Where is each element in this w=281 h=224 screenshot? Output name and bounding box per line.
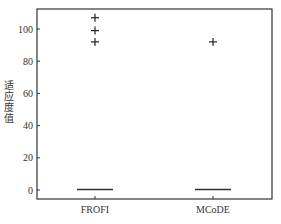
plot-frame <box>37 9 272 199</box>
y-tick-label: 100 <box>18 24 33 35</box>
box-series <box>77 14 231 190</box>
y-tick-label: 80 <box>23 56 33 67</box>
y-tick-label: 0 <box>28 185 33 196</box>
outlier-plus-marker <box>91 14 99 22</box>
y-axis-label: 适应度值 <box>2 80 16 124</box>
x-tick-label: FROFI <box>81 204 109 215</box>
outlier-plus-marker <box>91 27 99 35</box>
y-tick-label: 60 <box>23 88 33 99</box>
outlier-plus-marker <box>91 38 99 46</box>
box-mcode <box>195 38 231 190</box>
outlier-plus-marker <box>209 38 217 46</box>
x-tick-label: MCoDE <box>196 204 230 215</box>
y-tick-label: 20 <box>23 152 33 163</box>
box-plot: 020406080100 FROFIMCoDE <box>0 0 281 224</box>
box-frofi <box>77 14 113 190</box>
y-tick-label: 40 <box>23 120 33 131</box>
